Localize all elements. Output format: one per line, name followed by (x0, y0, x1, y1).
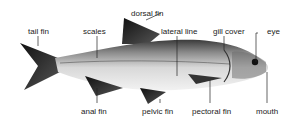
label-gill-cover: gill cover (213, 27, 245, 36)
pelvic-fin-shape (140, 88, 166, 104)
label-mouth: mouth (256, 107, 278, 116)
label-dorsal-fin: dorsal fin (131, 9, 163, 18)
label-eye: eye (267, 27, 280, 36)
label-scales: scales (83, 27, 106, 36)
tail-fin-shape (20, 43, 60, 90)
label-tail-fin: tail fin (28, 27, 49, 36)
eye-shape (252, 59, 258, 65)
label-pelvic-fin: pelvic fin (142, 107, 173, 116)
dorsal-fin-shape (122, 18, 160, 44)
fish-illustration (0, 0, 302, 123)
label-pectoral-fin: pectoral fin (192, 107, 231, 116)
label-lateral-line: lateral line (161, 27, 197, 36)
label-anal-fin: anal fin (81, 107, 107, 116)
